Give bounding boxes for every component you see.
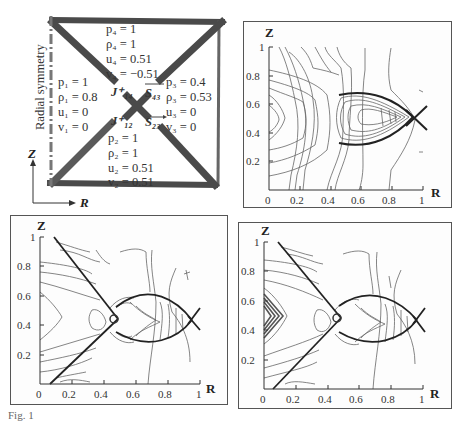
state-1-text: p₁ = 1 ρ₁ = 0.8 u₁ = 0 v₁ = 0 (58, 75, 98, 134)
svg-text:0.2: 0.2 (17, 349, 31, 361)
wave-j14-label: J⁺₁₄ (110, 85, 133, 99)
plot-bottom-right: Z R 1 0.8 0.6 0.4 0.2 0 0.2 0.4 0.6 0.8 … (231, 212, 462, 423)
y-tick-labels: 1 0.8 0.6 0.4 0.2 (17, 231, 36, 361)
state-4-text: p₄ = 1 ρ₄ = 1 u₄ = 0.51 v₄ = −0.51 (106, 22, 159, 81)
svg-text:ρ₁ = 0.8: ρ₁ = 0.8 (58, 90, 98, 104)
svg-text:ρ₃ = 0.53: ρ₃ = 0.53 (166, 90, 212, 104)
svg-text:p₄ = 1: p₄ = 1 (106, 22, 136, 36)
plot-top-right: Z R 1 0.8 0.6 0.4 0.2 0 0.2 0.4 0.6 0.8 … (231, 0, 462, 212)
svg-text:0.6: 0.6 (349, 393, 363, 405)
svg-text:v₂ = 0.51: v₂ = 0.51 (108, 175, 154, 189)
svg-text:1: 1 (254, 236, 260, 248)
r-axis-label: R (431, 185, 441, 200)
svg-text:0.6: 0.6 (246, 98, 260, 110)
svg-text:1: 1 (259, 41, 265, 53)
svg-text:0.8: 0.8 (158, 388, 172, 400)
plot-bottom-left: Z R 1 0.8 0.6 0.4 0.2 0 0.2 0.4 0.6 0.8 … (0, 212, 231, 423)
svg-text:u₄ = 0.51: u₄ = 0.51 (106, 52, 152, 66)
svg-text:0.8: 0.8 (246, 70, 260, 82)
svg-text:ρ₂ = 1: ρ₂ = 1 (108, 146, 138, 160)
x-tick-labels: 0 0.2 0.4 0.6 0.8 1 (260, 393, 425, 405)
axes-bottom-right (264, 242, 423, 389)
svg-text:0.2: 0.2 (290, 194, 304, 206)
wave-s43-label: S₄₃ (145, 86, 161, 100)
svg-text:1: 1 (419, 393, 425, 405)
contour-lines (264, 247, 415, 389)
svg-text:p₁ = 1: p₁ = 1 (58, 75, 88, 89)
svg-text:0.2: 0.2 (241, 354, 255, 366)
svg-text:0.2: 0.2 (286, 393, 300, 405)
r-axis-label: R (430, 386, 440, 401)
state-3-text: p₃ = 0.4 ρ₃ = 0.53 u₃ = 0 v₃ = 0 (166, 75, 212, 134)
svg-text:u₂ = 0.51: u₂ = 0.51 (108, 161, 154, 175)
svg-text:0.8: 0.8 (381, 393, 395, 405)
svg-text:v₃ = 0: v₃ = 0 (166, 120, 196, 134)
svg-text:0.6: 0.6 (241, 295, 255, 307)
svg-text:1: 1 (196, 388, 202, 400)
svg-text:0: 0 (260, 393, 266, 405)
svg-text:0.6: 0.6 (351, 194, 365, 206)
svg-text:v₄ = −0.51: v₄ = −0.51 (106, 67, 159, 81)
contour-lines (40, 242, 190, 384)
svg-text:0.6: 0.6 (17, 290, 31, 302)
svg-text:0.2: 0.2 (62, 388, 76, 400)
svg-text:0.4: 0.4 (321, 194, 335, 206)
contour-plot-bottom-right: Z R 1 0.8 0.6 0.4 0.2 0 0.2 0.4 0.6 0.8 … (231, 212, 462, 423)
svg-text:p₂ = 1: p₂ = 1 (108, 131, 138, 145)
x-tick-labels: 0 0.2 0.4 0.6 0.8 1 (36, 388, 202, 400)
svg-text:1: 1 (30, 231, 36, 243)
svg-text:0.6: 0.6 (126, 388, 140, 400)
svg-text:0.4: 0.4 (246, 127, 260, 139)
r-axis-label: R (206, 381, 216, 396)
svg-text:0.4: 0.4 (94, 388, 108, 400)
svg-text:ρ₄ = 1: ρ₄ = 1 (106, 37, 136, 51)
svg-text:v₁ = 0: v₁ = 0 (58, 120, 88, 134)
svg-text:0.4: 0.4 (17, 319, 31, 331)
z-axis-label: Z (265, 25, 274, 40)
shock-lines (273, 242, 425, 389)
x-tick-labels: 0 0.2 0.4 0.6 0.8 1 (265, 194, 425, 206)
svg-text:0.4: 0.4 (318, 393, 332, 405)
r-arrow-icon (69, 200, 76, 206)
contour-plot-bottom-left: Z R 1 0.8 0.6 0.4 0.2 0 0.2 0.4 0.6 0.8 … (0, 212, 231, 423)
svg-text:0.8: 0.8 (17, 260, 31, 272)
figure-caption: Fig. 1 (8, 409, 34, 421)
z-axis-label: Z (261, 223, 270, 238)
svg-text:0: 0 (265, 194, 271, 206)
contour-lines (269, 47, 423, 190)
svg-text:0: 0 (36, 388, 42, 400)
y-tick-labels: 1 0.8 0.6 0.4 0.2 (241, 236, 260, 366)
svg-text:1: 1 (419, 194, 425, 206)
shock-lines (50, 237, 200, 384)
schematic-diagram: Radial symmetry p₄ = 1 ρ₄ = 1 u₄ = 0.51 … (0, 0, 231, 212)
svg-text:u₁ = 0: u₁ = 0 (58, 105, 88, 119)
state-2-text: p₂ = 1 ρ₂ = 1 u₂ = 0.51 v₂ = 0.51 (108, 131, 154, 189)
svg-text:p₃ = 0.4: p₃ = 0.4 (166, 75, 206, 89)
svg-text:u₃ = 0: u₃ = 0 (166, 105, 196, 119)
schematic-panel: Radial symmetry p₄ = 1 ρ₄ = 1 u₄ = 0.51 … (0, 0, 231, 212)
z-axis-label: Z (37, 218, 46, 233)
svg-text:0.8: 0.8 (382, 194, 396, 206)
svg-text:Z: Z (27, 146, 36, 161)
svg-text:0.8: 0.8 (241, 265, 255, 277)
symmetry-label: Radial symmetry (33, 44, 47, 130)
svg-text:0.4: 0.4 (241, 324, 255, 336)
svg-text:R: R (79, 195, 89, 210)
wave-j12-label: J⁺₁₂ (110, 114, 133, 128)
svg-text:0.2: 0.2 (246, 155, 260, 167)
contour-plot-top-right: Z R 1 0.8 0.6 0.4 0.2 0 0.2 0.4 0.6 0.8 … (231, 0, 462, 212)
y-tick-labels: 1 0.8 0.6 0.4 0.2 (246, 41, 265, 167)
